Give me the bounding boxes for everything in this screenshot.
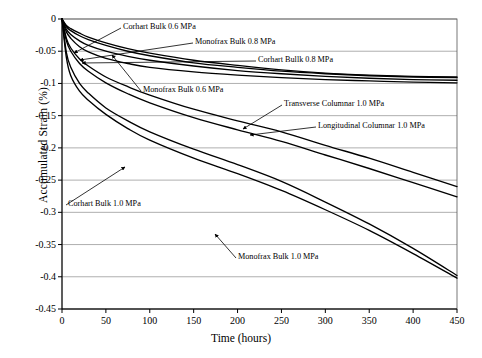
x-tick-label: 200 — [218, 315, 258, 326]
chart-canvas — [0, 0, 482, 358]
series-annotation-label: Monofrax Bulk 0.6 MPa — [143, 86, 224, 94]
y-tick-label: -0.3 — [40, 206, 56, 217]
series-annotation-label: Corhart Bulk 0.6 MPa — [123, 23, 196, 31]
y-tick-label: -0.1 — [40, 77, 56, 88]
chart-figure: Accumulated Strain (%) Time (hours) 0-0.… — [0, 0, 482, 358]
x-tick-label: 350 — [349, 315, 389, 326]
y-tick-label: -0.05 — [35, 45, 56, 56]
y-tick-label: -0.2 — [40, 142, 56, 153]
annotation-leader — [250, 127, 316, 135]
annotation-leader — [215, 234, 236, 258]
y-tick-label: -0.4 — [40, 271, 56, 282]
x-tick-label: 100 — [130, 315, 170, 326]
x-axis-label: Time (hours) — [0, 332, 482, 344]
series-annotation-label: Longitudinal Columnar 1.0 MPa — [318, 122, 425, 130]
x-tick-label: 450 — [437, 315, 477, 326]
x-tick-label: 150 — [174, 315, 214, 326]
series-line — [62, 19, 457, 78]
annotation-leader — [243, 105, 282, 129]
y-tick-label: -0.25 — [35, 174, 56, 185]
x-tick-label: 0 — [42, 315, 82, 326]
x-tick-label: 400 — [393, 315, 433, 326]
y-tick-label: 0 — [51, 13, 56, 24]
y-tick-label: -0.35 — [35, 239, 56, 250]
x-tick-label: 300 — [305, 315, 345, 326]
series-annotation-label: Transverse Columnar 1.0 MPa — [284, 100, 384, 108]
series-line — [62, 19, 457, 77]
series-annotation-label: Monofrax Bulk 1.0 MPa — [238, 253, 319, 261]
x-tick-label: 50 — [86, 315, 126, 326]
y-tick-label: -0.45 — [35, 303, 56, 314]
series-annotation-label: Corhart Bulk 1.0 MPa — [68, 200, 141, 208]
series-annotation-label: Corhart Bullk 0.8 MPa — [258, 56, 333, 64]
series-annotation-label: Monofrax Bulk 0.8 MPa — [195, 38, 276, 46]
x-tick-label: 250 — [261, 315, 301, 326]
y-tick-label: -0.15 — [35, 110, 56, 121]
